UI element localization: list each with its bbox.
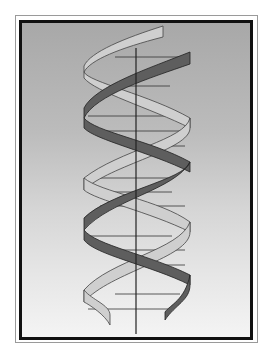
dna-helix-illustration	[0, 0, 274, 357]
